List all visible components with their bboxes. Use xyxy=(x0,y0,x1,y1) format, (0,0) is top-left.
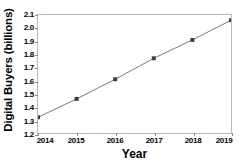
y-axis-tick-label: 1.5 xyxy=(14,90,34,99)
data-point-marker xyxy=(113,77,117,81)
y-axis-tick-mark xyxy=(35,108,38,109)
y-axis-tick-label: 1.2 xyxy=(14,130,34,139)
y-axis-title-text: Digital Buyers (billions) xyxy=(2,8,14,131)
x-axis-tick-label: 2016 xyxy=(107,136,124,145)
x-axis-tick-label: 2018 xyxy=(185,136,202,145)
plot-area xyxy=(37,14,232,134)
y-axis-tick-label: 1.7 xyxy=(14,63,34,72)
data-point-marker xyxy=(152,56,156,60)
data-point-marker xyxy=(75,97,79,101)
y-axis-tick-label: 1.8 xyxy=(14,50,34,59)
data-point-marker xyxy=(190,38,194,42)
x-axis-tick-label: 2017 xyxy=(146,136,163,145)
x-axis-tick-label: 2019 xyxy=(216,136,233,145)
chart-screenshot: Digital Buyers (billions) 2.12.01.91.81.… xyxy=(0,0,245,165)
y-axis-tick-label: 2.1 xyxy=(14,10,34,19)
y-axis-tick-label: 1.3 xyxy=(14,116,34,125)
x-axis-tick-label: 2015 xyxy=(68,136,85,145)
y-axis-tick-label: 1.6 xyxy=(14,76,34,85)
x-axis-tick-label: 2014 xyxy=(37,136,54,145)
y-axis-tick-mark xyxy=(35,28,38,29)
y-axis-tick-label: 1.4 xyxy=(14,103,34,112)
y-axis-tick-mark xyxy=(35,15,38,16)
data-point-marker xyxy=(229,18,231,22)
y-axis-tick-mark xyxy=(35,68,38,69)
y-axis-tick-label: 1.9 xyxy=(14,36,34,45)
y-axis-tick-mark xyxy=(35,55,38,56)
y-axis-tick-label: 2.0 xyxy=(14,23,34,32)
y-axis-tick-mark xyxy=(35,42,38,43)
y-axis-tick-labels: 2.12.01.91.81.71.61.51.41.31.2 xyxy=(14,0,34,165)
x-axis-title: Year xyxy=(37,147,232,161)
line-series-svg xyxy=(38,15,231,133)
data-line xyxy=(38,20,231,117)
y-axis-tick-mark xyxy=(35,122,38,123)
y-axis-tick-mark xyxy=(35,82,38,83)
data-point-marker xyxy=(38,115,40,119)
y-axis-tick-mark xyxy=(35,95,38,96)
